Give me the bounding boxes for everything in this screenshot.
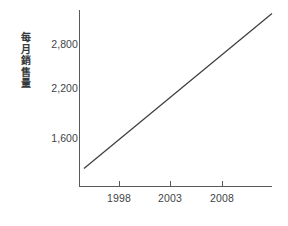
plot-area <box>0 0 288 226</box>
chart-container: 每 月 銷 售 量 2,800 2,200 1,600 1998 2003 20… <box>0 0 288 226</box>
data-series-line <box>84 13 272 168</box>
